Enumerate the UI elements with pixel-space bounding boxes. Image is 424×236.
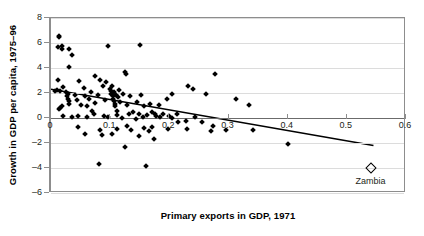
chart-figure: Growth in GDP per capita, 1975–96 Zambia… xyxy=(0,0,424,236)
data-point xyxy=(136,133,142,139)
data-point xyxy=(199,119,205,125)
data-point xyxy=(127,93,133,99)
data-point xyxy=(122,144,128,150)
gridline-y xyxy=(51,68,404,69)
y-axis-tick xyxy=(44,167,49,168)
x-axis-tick-label: 0.4 xyxy=(272,120,302,130)
data-point xyxy=(151,136,157,142)
data-point xyxy=(78,102,84,108)
y-axis-tick xyxy=(44,42,49,43)
data-point xyxy=(137,42,143,48)
x-axis-tick-label: 0.1 xyxy=(94,120,124,130)
gridline-y xyxy=(51,143,404,144)
gridline-y xyxy=(51,93,404,94)
x-axis-tick xyxy=(228,114,229,119)
x-axis-tick-label: 0.2 xyxy=(153,120,183,130)
y-axis-tick-label: –6 xyxy=(16,187,42,197)
data-point xyxy=(124,123,130,129)
gridline-y xyxy=(51,193,404,194)
data-point xyxy=(86,96,92,102)
plot-area: Zambia xyxy=(50,17,405,192)
y-axis-tick-label: 8 xyxy=(16,12,42,22)
trend-line xyxy=(51,18,406,193)
data-point xyxy=(69,115,75,121)
data-point xyxy=(99,132,105,138)
x-axis-title: Primary exports in GDP, 1971 xyxy=(50,210,406,221)
data-point xyxy=(88,90,94,96)
data-point xyxy=(82,131,88,137)
x-axis-tick xyxy=(346,114,347,119)
data-point xyxy=(81,85,87,91)
data-point xyxy=(174,111,180,117)
data-point xyxy=(129,127,135,133)
x-axis-tick-label: 0.3 xyxy=(213,120,243,130)
x-axis-tick xyxy=(168,114,169,119)
data-point xyxy=(74,97,80,103)
data-point xyxy=(169,91,175,97)
gridline-y xyxy=(51,18,404,19)
x-axis-tick xyxy=(109,114,110,119)
x-axis-tick-label: 0.6 xyxy=(390,120,420,130)
y-axis-tick-label: 2 xyxy=(16,87,42,97)
y-axis-tick xyxy=(44,117,49,118)
y-axis-title: Growth in GDP per capita, 1975–96 xyxy=(4,5,22,205)
x-axis-tick xyxy=(50,114,51,119)
data-point xyxy=(285,141,291,147)
data-point xyxy=(148,101,154,107)
data-point xyxy=(66,101,72,107)
y-axis-tick xyxy=(44,67,49,68)
data-point xyxy=(95,92,101,98)
y-axis-tick-label: 6 xyxy=(16,37,42,47)
data-point xyxy=(93,73,99,79)
x-axis-tick-label: 0.5 xyxy=(331,120,361,130)
data-point xyxy=(69,52,75,58)
data-point xyxy=(59,46,65,52)
data-point xyxy=(156,102,162,108)
data-point xyxy=(117,100,123,106)
x-axis-tick-label: 0 xyxy=(35,120,65,130)
data-point xyxy=(233,96,239,102)
data-point xyxy=(164,96,170,102)
data-point xyxy=(91,111,97,117)
data-point xyxy=(109,131,115,137)
data-point xyxy=(190,86,196,92)
y-axis-tick-label: –4 xyxy=(16,162,42,172)
data-point xyxy=(184,126,190,132)
y-axis-tick xyxy=(44,17,49,18)
y-axis-tick xyxy=(44,192,49,193)
data-point xyxy=(134,100,140,106)
data-point xyxy=(124,102,130,108)
gridline-y xyxy=(51,43,404,44)
data-point-label-zambia: Zambia xyxy=(341,176,401,186)
y-axis-tick-label: 4 xyxy=(16,62,42,72)
data-point xyxy=(126,111,132,117)
data-point xyxy=(120,91,126,97)
data-point xyxy=(246,102,252,108)
data-point xyxy=(96,161,102,167)
data-point xyxy=(102,97,108,103)
data-point xyxy=(109,83,115,89)
data-point xyxy=(105,43,111,49)
data-point xyxy=(76,78,82,84)
data-point xyxy=(75,125,81,131)
data-point-zambia xyxy=(365,162,376,173)
data-point xyxy=(184,118,190,124)
data-point xyxy=(203,91,209,97)
y-axis-tick-label: –2 xyxy=(16,137,42,147)
data-point xyxy=(55,77,61,83)
y-axis-tick xyxy=(44,92,49,93)
data-point xyxy=(92,100,98,106)
data-point xyxy=(66,46,72,52)
data-point xyxy=(84,103,90,109)
data-point xyxy=(251,127,257,133)
x-axis-tick xyxy=(405,114,406,119)
gridline-y xyxy=(51,168,404,169)
data-point xyxy=(133,116,139,122)
x-axis-tick xyxy=(287,114,288,119)
y-axis-tick xyxy=(44,142,49,143)
data-point xyxy=(212,71,218,77)
data-point xyxy=(66,65,72,71)
